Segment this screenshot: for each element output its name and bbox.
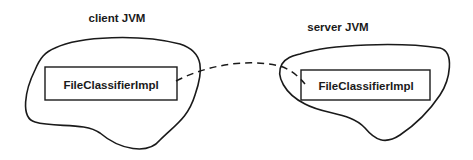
diagram-canvas: client JVM FileClassifierImpl server JVM… (0, 0, 473, 160)
server-jvm-title: server JVM (307, 21, 368, 33)
client-object-label: FileClassifierImpl (63, 79, 158, 91)
server-jvm: server JVM FileClassifierImpl (280, 21, 450, 140)
client-jvm: client JVM FileClassifierImpl (26, 12, 201, 149)
remote-reference-connector (176, 63, 305, 84)
server-object-label: FileClassifierImpl (318, 80, 413, 92)
client-jvm-title: client JVM (89, 12, 146, 24)
